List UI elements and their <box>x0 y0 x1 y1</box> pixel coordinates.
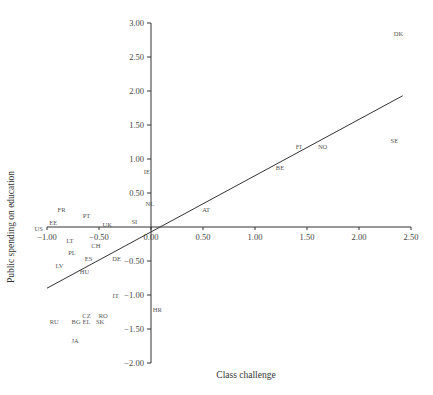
point-label-dk: DK <box>394 30 404 37</box>
point-label-sk: SK <box>96 318 105 325</box>
axes: −1.00−0.500.000.501.001.502.002.50−2.00−… <box>37 18 418 368</box>
point-label-us: US <box>35 225 44 232</box>
point-label-lv: LV <box>55 262 63 269</box>
x-tick-label: −1.00 <box>37 232 57 242</box>
point-label-el: EL <box>83 318 91 325</box>
point-label-lt: LT <box>66 237 73 244</box>
point-label-si: SI <box>131 218 137 225</box>
point-label-nl: NL <box>146 200 155 207</box>
point-label-bg: BG <box>72 318 81 325</box>
point-label-de: DE <box>112 255 121 262</box>
y-tick-label: 2.50 <box>129 52 144 62</box>
y-tick-label: −1.00 <box>124 290 144 300</box>
point-label-pt: PT <box>83 212 91 219</box>
y-tick-label: 3.00 <box>129 18 144 28</box>
point-label-ie: IE <box>144 168 150 175</box>
point-label-ru: RU <box>50 318 59 325</box>
scatter-chart: −1.00−0.500.000.501.001.502.002.50−2.00−… <box>0 0 433 395</box>
x-tick-label: 0.50 <box>196 232 211 242</box>
y-axis-title: Public spending on education <box>6 171 16 283</box>
point-label-uk: UK <box>103 221 113 228</box>
x-tick-label: 0.00 <box>144 232 159 242</box>
y-tick-label: 1.50 <box>129 120 144 130</box>
y-tick-label: −1.50 <box>124 324 144 334</box>
point-label-hr: HR <box>153 306 163 313</box>
y-tick-label: −0.50 <box>124 256 144 266</box>
data-points: DKSEFINOBEIENLATSIUKFRPTEEUSLTCHPLESDELV… <box>35 30 404 344</box>
y-tick-label: −2.00 <box>124 358 144 368</box>
fit-line <box>47 96 403 288</box>
point-label-ee: EE <box>49 219 57 226</box>
point-label-no: NO <box>318 143 328 150</box>
point-label-se: SE <box>391 137 399 144</box>
x-tick-label: 1.00 <box>248 232 263 242</box>
point-label-at: AT <box>202 206 210 213</box>
y-tick-label: 0.50 <box>129 188 144 198</box>
point-label-ch: CH <box>91 242 100 249</box>
point-label-fr: FR <box>58 206 67 213</box>
point-label-pl: PL <box>68 249 76 256</box>
point-label-it: IT <box>113 292 119 299</box>
point-label-be: BE <box>276 164 284 171</box>
y-tick-label: 1.00 <box>129 154 144 164</box>
point-label-es: ES <box>85 255 93 262</box>
regression-line <box>47 96 403 288</box>
x-tick-label: 2.00 <box>352 232 367 242</box>
point-label-hu: HU <box>80 268 90 275</box>
y-tick-label: 2.00 <box>129 86 144 96</box>
x-axis-title: Class challenge <box>216 370 275 380</box>
point-label-ja: JA <box>71 337 79 344</box>
x-tick-label: 2.50 <box>404 232 419 242</box>
x-tick-label: 1.50 <box>300 232 315 242</box>
x-tick-label: −0.50 <box>89 232 109 242</box>
point-label-fi: FI <box>296 143 302 150</box>
